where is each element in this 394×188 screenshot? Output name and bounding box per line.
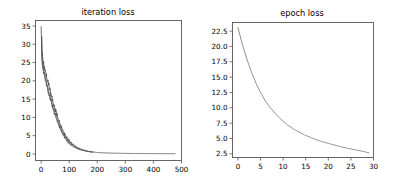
y-tick-label: 35 [21,22,30,31]
matplotlib-figure: iteration loss 05101520253035 0100200300… [0,0,394,188]
chart-title-iteration-loss: iteration loss [81,7,134,17]
y-tick-label: 0 [26,150,31,159]
y-tick-label: 30 [21,40,31,49]
y-tick-label: 10.0 [211,103,227,112]
x-axis-ticks-right: 051015202530 [236,158,379,171]
y-tick-label: 15.0 [211,73,227,82]
x-tick-label: 0 [236,162,241,171]
y-tick-label: 22.5 [211,27,227,36]
y-tick-label: 20.0 [211,42,227,51]
iteration-loss-chart: iteration loss 05101520253035 0100200300… [0,0,197,188]
y-tick-label: 15 [21,95,30,104]
y-tick-label: 10 [21,113,31,122]
x-tick-label: 500 [175,165,189,174]
x-tick-label: 5 [258,162,263,171]
iteration-loss-curve [41,27,175,154]
subplot-epoch-loss: epoch loss 2.55.07.510.012.515.017.520.0… [197,0,394,188]
y-tick-label: 5.0 [216,134,228,143]
plot-frame-right [233,23,374,158]
plot-frame-left [36,21,182,161]
y-tick-label: 7.5 [216,119,227,128]
y-axis-ticks-right: 2.55.07.510.012.515.017.520.022.5 [211,27,232,159]
x-tick-label: 20 [324,162,334,171]
y-tick-label: 20 [21,76,31,85]
y-tick-label: 17.5 [211,57,227,66]
epoch-loss-curve [238,27,369,152]
y-tick-label: 5 [26,131,31,140]
x-tick-label: 30 [369,162,379,171]
subplot-iteration-loss: iteration loss 05101520253035 0100200300… [0,0,197,188]
x-tick-label: 400 [147,165,161,174]
epoch-loss-chart: epoch loss 2.55.07.510.012.515.017.520.0… [197,0,394,188]
y-axis-ticks-left: 05101520253035 [21,22,35,159]
x-tick-label: 100 [62,165,76,174]
x-tick-label: 15 [301,162,310,171]
x-axis-ticks-left: 0100200300400500 [39,161,189,174]
x-tick-label: 10 [279,162,289,171]
y-tick-label: 12.5 [211,88,227,97]
x-tick-label: 25 [346,162,355,171]
y-tick-label: 25 [21,58,30,67]
chart-title-epoch-loss: epoch loss [280,8,323,18]
x-tick-label: 0 [39,165,44,174]
x-tick-label: 300 [118,165,132,174]
y-tick-label: 2.5 [216,149,227,158]
x-tick-label: 200 [90,165,104,174]
